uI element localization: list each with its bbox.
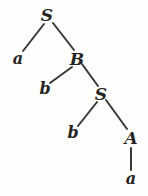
tree-node-nonterminal-b: B — [70, 51, 84, 68]
tree-edge — [23, 24, 44, 51]
tree-edge — [50, 67, 72, 83]
tree-edge — [106, 100, 127, 129]
tree-node-nonterminal-a: A — [124, 130, 137, 147]
tree-node-terminal-b: b — [67, 125, 78, 141]
tree-node-terminal-a: a — [13, 51, 23, 67]
tree-edge — [78, 102, 97, 126]
tree-edge — [53, 23, 74, 50]
tree-node-nonterminal-s: S — [95, 86, 107, 103]
tree-node-terminal-b: b — [39, 81, 50, 97]
tree-edges-layer — [0, 0, 148, 196]
parse-tree-figure: SaBbSbAa — [0, 0, 148, 196]
tree-node-terminal-a: a — [126, 171, 136, 187]
tree-node-nonterminal-s: S — [41, 7, 53, 24]
